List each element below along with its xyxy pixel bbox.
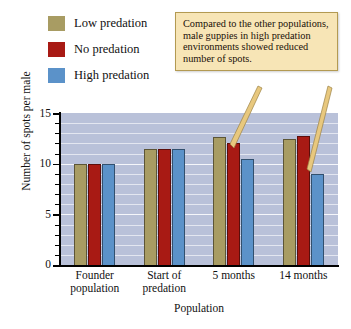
y-tick-0 xyxy=(53,265,59,267)
y-tick-2 xyxy=(55,245,59,246)
x-axis-category-labels: Founder population Start of predation 5 … xyxy=(60,269,338,294)
legend-item-no-predation: No predation xyxy=(48,39,149,60)
chart-legend: Low predation No predation High predatio… xyxy=(48,13,149,91)
legend-item-high-predation: High predation xyxy=(48,65,149,86)
plot-area xyxy=(60,113,338,265)
callout-pointer-14-months xyxy=(300,86,334,172)
bar-5-months-high-predation xyxy=(241,159,254,265)
bar-start-of-predation-low-predation xyxy=(144,149,157,266)
y-tick-9 xyxy=(55,174,59,175)
annotation-callout: Compared to the other populations, male … xyxy=(175,12,338,71)
bar-group-founder-population xyxy=(60,113,130,265)
legend-label-no-predation: No predation xyxy=(74,43,140,56)
bar-founder-population-high-predation xyxy=(102,164,115,265)
category-label-line1: 5 months xyxy=(199,269,269,282)
bar-5-months-low-predation xyxy=(213,137,226,265)
y-tick-3 xyxy=(55,235,59,236)
y-tick-6 xyxy=(55,204,59,205)
bar-14-months-high-predation xyxy=(311,174,324,265)
y-tick-5 xyxy=(53,214,59,216)
chart-figure: Low predation No predation High predatio… xyxy=(0,0,351,329)
x-axis-line xyxy=(59,265,339,267)
category-label-founder-population: Founder population xyxy=(60,269,130,294)
bar-groups xyxy=(60,113,338,265)
y-tick-4 xyxy=(55,225,59,226)
y-tick-7 xyxy=(55,194,59,195)
y-tick-13 xyxy=(55,133,59,134)
legend-label-high-predation: High predation xyxy=(74,69,149,82)
category-label-line1: 14 months xyxy=(269,269,339,282)
annotation-callout-text: Compared to the other populations, male … xyxy=(183,18,331,64)
y-tick-1 xyxy=(55,255,59,256)
category-label-start-of-predation: Start of predation xyxy=(130,269,200,294)
bar-start-of-predation-high-predation xyxy=(172,149,185,266)
y-tick-11 xyxy=(55,154,59,155)
category-label-line2: population xyxy=(60,282,130,295)
bar-5-months-no-predation xyxy=(227,143,240,265)
y-axis-line xyxy=(59,112,61,266)
category-label-line1: Start of xyxy=(130,269,200,282)
bar-14-months-low-predation xyxy=(283,139,296,265)
category-label-14-months: 14 months xyxy=(269,269,339,294)
callout-pointer-5-months xyxy=(228,86,262,148)
bar-founder-population-no-predation xyxy=(88,164,101,265)
category-label-line1: Founder xyxy=(60,269,130,282)
y-tick-10 xyxy=(53,164,59,166)
bar-start-of-predation-no-predation xyxy=(158,149,171,266)
y-tick-8 xyxy=(55,184,59,185)
y-tick-15 xyxy=(53,113,59,115)
y-tick-12 xyxy=(55,143,59,144)
bar-founder-population-low-predation xyxy=(74,164,87,265)
y-tick-label-0: 0 xyxy=(0,259,51,271)
category-label-line2: predation xyxy=(130,282,200,295)
y-tick-14 xyxy=(55,123,59,124)
y-axis-title: Number of spots per male xyxy=(20,66,32,196)
x-axis-title: Population xyxy=(60,302,338,314)
legend-label-low-predation: Low predation xyxy=(74,17,147,30)
bar-group-start-of-predation xyxy=(130,113,200,265)
legend-item-low-predation: Low predation xyxy=(48,13,149,34)
y-tick-label-5: 5 xyxy=(0,209,51,221)
category-label-5-months: 5 months xyxy=(199,269,269,294)
